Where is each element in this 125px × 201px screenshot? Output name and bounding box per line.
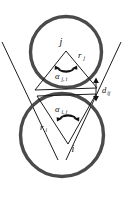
label-angle-alpha-ji-subscript: j, i	[60, 76, 67, 82]
angle-arrowhead-lower-left	[57, 117, 63, 121]
label-distance-dij: d ij	[102, 85, 111, 96]
label-radius-rj-subscript: j	[83, 55, 86, 61]
label-radius-ri: r i	[40, 122, 48, 133]
label-distance-dij-subscript: ij	[107, 90, 111, 96]
label-radius-ri-symbol: r	[40, 122, 44, 132]
label-angle-alpha-ij: α i, j	[55, 104, 68, 115]
figure-container: j r j α j, i α i, j r i i d ij	[0, 0, 125, 201]
distance-arrowhead-top	[93, 78, 99, 84]
label-radius-rj-symbol: r	[78, 50, 82, 60]
angle-marker-lower	[57, 114, 80, 121]
label-angle-alpha-ij-symbol: α	[55, 104, 60, 114]
label-radius-rj: r j	[78, 50, 86, 61]
label-angle-alpha-ji-symbol: α	[55, 71, 60, 81]
label-angle-alpha-ij-subscript: i, j	[61, 109, 67, 115]
label-radius-ri-subscript: i	[46, 127, 48, 133]
label-node-i: i	[72, 143, 75, 154]
angle-arrowhead-upper-right	[71, 66, 77, 70]
triangle-lower-right-leg	[68, 94, 96, 144]
angle-arrowhead-lower-right	[73, 117, 79, 121]
angle-arrowhead-upper-left	[55, 66, 61, 70]
geometry-diagram: j r j α j, i α i, j r i i d ij	[0, 0, 125, 201]
label-node-j: j	[58, 36, 63, 47]
triangle-lower-left-leg	[37, 96, 68, 144]
